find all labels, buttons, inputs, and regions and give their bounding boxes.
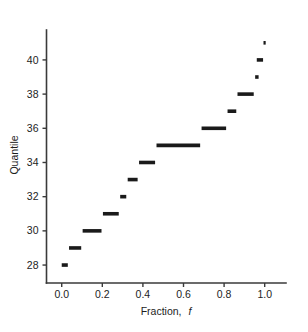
y-tick-label-32: 32: [27, 190, 39, 202]
x-axis-title-variable: f: [188, 305, 192, 317]
chart-canvas: 28303234363840 0.00.20.40.60.81.0 Quanti…: [0, 0, 308, 332]
x-axis-title-text: Fraction,: [141, 305, 182, 317]
y-tick-label-40: 40: [27, 54, 39, 66]
x-tick-label-1.0: 1.0: [257, 288, 272, 300]
y-axis-title: Quantile: [8, 135, 20, 174]
quantile-plot-figure: 28303234363840 0.00.20.40.60.81.0 Quanti…: [0, 0, 308, 332]
x-tick-label-0.4: 0.4: [136, 288, 151, 300]
x-axis-tick-labels: 0.00.20.40.60.81.0: [54, 288, 272, 300]
y-tick-label-34: 34: [27, 156, 39, 168]
x-axis-title: Fraction, f: [141, 305, 193, 317]
y-axis-tick-labels: 28303234363840: [27, 54, 39, 271]
y-tick-label-38: 38: [27, 88, 39, 100]
x-tick-label-0.2: 0.2: [95, 288, 110, 300]
x-tick-label-0.0: 0.0: [54, 288, 69, 300]
y-tick-label-30: 30: [27, 224, 39, 236]
axes-group: [47, 30, 287, 283]
x-tick-label-0.8: 0.8: [217, 288, 232, 300]
x-tick-label-0.6: 0.6: [176, 288, 191, 300]
data-series-segments: [62, 43, 266, 265]
y-tick-label-36: 36: [27, 122, 39, 134]
y-tick-label-28: 28: [27, 259, 39, 271]
